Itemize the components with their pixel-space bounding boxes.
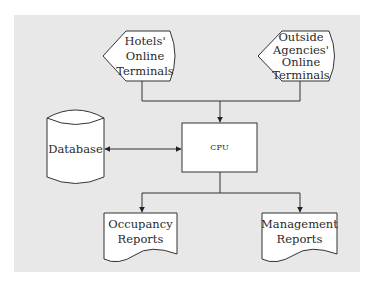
label-line: Online	[282, 56, 320, 69]
cpu-label: CPU	[182, 123, 257, 172]
outside-terminals-label: Outside Agencies' Online Terminals	[266, 31, 336, 81]
cpu-to-management-arrow	[220, 193, 300, 212]
label-line: Terminals	[272, 69, 330, 82]
label-line: Terminals	[116, 64, 174, 79]
label-line: Reports	[277, 232, 323, 247]
database-label: Database	[47, 135, 104, 163]
label-line: Online	[126, 49, 164, 64]
hotels-to-cpu-line	[142, 81, 300, 101]
hotels-terminals-label: Hotels' Online Terminals	[112, 33, 178, 79]
label-line: Management	[261, 217, 338, 232]
occupancy-reports-label: Occupancy Reports	[104, 216, 177, 248]
cpu-to-occupancy-arrow	[142, 193, 220, 212]
label-line: Occupancy	[108, 217, 172, 232]
label-line: Outside	[278, 31, 323, 44]
label-line: Hotels'	[124, 34, 165, 49]
management-reports-label: Management Reports	[262, 216, 337, 248]
label-line: Reports	[118, 232, 164, 247]
